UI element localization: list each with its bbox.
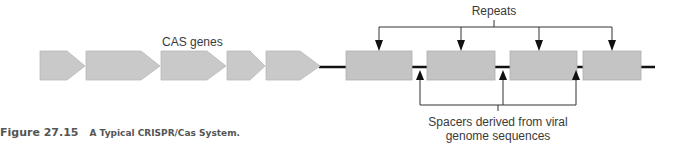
repeat-box-3 <box>510 51 577 80</box>
figure-title: A Typical CRISPR/Cas System. <box>90 128 240 138</box>
arrow-down-icon <box>608 40 616 51</box>
cas-gene-1 <box>40 51 85 80</box>
spacers-label-line1: Spacers derived from viral <box>428 115 567 129</box>
cas-gene-2 <box>86 51 160 80</box>
arrow-up-icon <box>416 70 424 80</box>
cas-gene-3 <box>161 51 226 80</box>
arrow-up-icon <box>499 70 507 80</box>
repeat-box-2 <box>427 51 495 80</box>
arrow-down-icon <box>375 40 383 51</box>
repeat-box-4 <box>583 51 641 80</box>
cas-gene-4 <box>227 51 265 80</box>
crispr-cas-diagram: CAS genes Repeats Spacers derived from v… <box>0 0 684 147</box>
arrow-down-icon <box>457 40 465 51</box>
repeat-array <box>346 51 641 80</box>
figure-caption: Figure 27.15 A Typical CRISPR/Cas System… <box>0 122 240 139</box>
cas-gene-cluster <box>40 51 320 80</box>
cas-genes-label: CAS genes <box>162 35 223 49</box>
cas-gene-5 <box>266 51 320 80</box>
repeats-label: Repeats <box>472 4 517 18</box>
arrow-down-icon <box>535 40 543 51</box>
repeat-box-1 <box>346 51 412 80</box>
spacers-label-line2: genome sequences <box>446 129 551 143</box>
repeats-bracket <box>375 20 616 51</box>
figure-number: Figure 27.15 <box>0 126 79 139</box>
